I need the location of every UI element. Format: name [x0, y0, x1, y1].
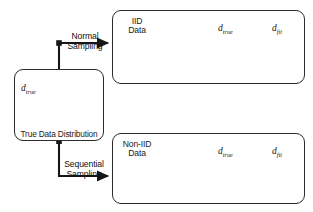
d-true-label-iid: dtrue	[218, 23, 233, 35]
d-fit-subscript: fit	[277, 151, 282, 158]
proper-fitting-label: Proper- fitting	[194, 42, 220, 54]
d-true-subscript: true	[26, 88, 36, 95]
d-true-label-non-iid: dtrue	[218, 146, 233, 158]
d-true-subscript: true	[223, 151, 233, 158]
d-true-label-main: dtrue	[21, 83, 36, 95]
over-fitting-label: Over- fitting	[195, 166, 219, 178]
d-fit-label-non-iid: dfit	[272, 146, 282, 158]
true-data-distribution-caption: True Data Distribution	[16, 130, 102, 139]
iid-data-title: IID Data	[120, 17, 154, 36]
edge-label-normal-sampling: Normal Sampling	[57, 32, 113, 51]
d-fit-label-iid: dfit	[272, 23, 282, 35]
d-fit-subscript: fit	[277, 28, 282, 35]
d-true-subscript: true	[223, 28, 233, 35]
edge-label-sequential-sampling: Sequential Sampling	[51, 160, 117, 179]
non-iid-data-title: Non-IID Data	[116, 140, 158, 159]
figure-canvas: True Data Distribution IID Data Non-IID …	[0, 0, 313, 212]
